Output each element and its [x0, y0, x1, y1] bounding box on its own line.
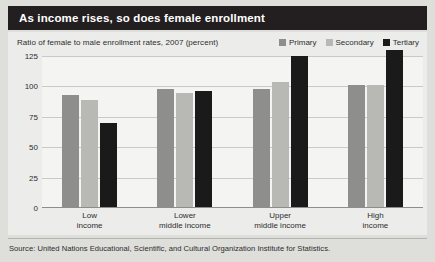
bar-tertiary[interactable] — [195, 91, 212, 207]
y-axis-tick-label: 75 — [29, 112, 38, 121]
legend-swatch-icon — [279, 39, 286, 46]
legend-swatch-icon — [326, 39, 333, 46]
x-axis-group-label: Highincome — [328, 211, 423, 230]
chart-panel: Ratio of female to male enrollment rates… — [8, 32, 427, 235]
x-axis-label-line: Lower — [137, 211, 232, 221]
page-title: As income rises, so does female enrollme… — [8, 12, 265, 24]
bar-secondary[interactable] — [367, 85, 384, 207]
y-axis-tick-label: 100 — [25, 82, 38, 91]
bar-primary[interactable] — [157, 89, 174, 207]
bar-group — [137, 56, 232, 207]
chart-header-bar: As income rises, so does female enrollme… — [8, 6, 427, 30]
legend-label: Tertiary — [393, 38, 419, 47]
x-axis-line — [42, 207, 423, 208]
plot-area — [42, 56, 423, 208]
x-axis-label-line: middle income — [233, 221, 328, 231]
x-axis-label-line: income — [42, 221, 137, 231]
chart-subtitle: Ratio of female to male enrollment rates… — [17, 38, 218, 47]
legend-item-secondary[interactable]: Secondary — [326, 38, 374, 47]
caption-row: Ratio of female to male enrollment rates… — [8, 38, 427, 52]
plot-wrapper: 0255075100125 LowincomeLowermiddle incom… — [8, 56, 427, 235]
bar-primary[interactable] — [253, 89, 270, 207]
x-axis-label-line: Upper — [233, 211, 328, 221]
y-axis-tick-label: 25 — [29, 173, 38, 182]
legend-swatch-icon — [383, 39, 390, 46]
bar-secondary[interactable] — [81, 100, 98, 207]
bar-groups — [42, 56, 423, 207]
chart-legend: PrimarySecondaryTertiary — [279, 38, 419, 47]
bar-group — [328, 56, 423, 207]
legend-label: Primary — [289, 38, 317, 47]
bar-tertiary[interactable] — [100, 123, 117, 207]
x-axis-label-line: Low — [42, 211, 137, 221]
footer-divider — [8, 238, 427, 239]
bar-primary[interactable] — [62, 95, 79, 207]
bar-secondary[interactable] — [176, 93, 193, 207]
bar-primary[interactable] — [348, 85, 365, 207]
bar-secondary[interactable] — [272, 82, 289, 207]
bar-group — [42, 56, 137, 207]
x-axis-group-label: Lowincome — [42, 211, 137, 230]
legend-item-tertiary[interactable]: Tertiary — [383, 38, 419, 47]
y-axis-tick-label: 0 — [34, 204, 38, 213]
source-note: Source: United Nations Educational, Scie… — [9, 244, 330, 253]
x-axis-label-line: income — [328, 221, 423, 231]
y-axis-labels: 0255075100125 — [8, 56, 42, 208]
x-axis-group-label: Lowermiddle income — [137, 211, 232, 230]
legend-label: Secondary — [336, 38, 374, 47]
x-axis-label-line: High — [328, 211, 423, 221]
y-axis-tick-label: 50 — [29, 143, 38, 152]
chart-figure: As income rises, so does female enrollme… — [0, 0, 435, 262]
bar-tertiary[interactable] — [291, 56, 308, 207]
x-axis-label-line: middle income — [137, 221, 232, 231]
bar-group — [233, 56, 328, 207]
legend-item-primary[interactable]: Primary — [279, 38, 317, 47]
y-axis-tick-label: 125 — [25, 52, 38, 61]
x-axis-labels: LowincomeLowermiddle incomeUppermiddle i… — [42, 211, 423, 230]
bar-tertiary[interactable] — [386, 50, 403, 207]
x-axis-group-label: Uppermiddle income — [233, 211, 328, 230]
